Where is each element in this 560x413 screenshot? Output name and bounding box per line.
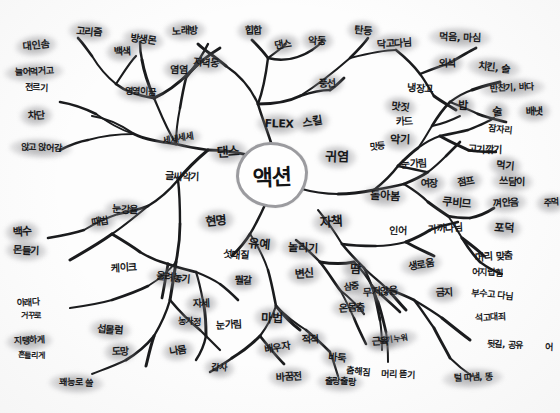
mind-map-node[interactable]: 술: [491, 106, 502, 119]
mind-map-node[interactable]: 탄등: [354, 25, 372, 37]
mind-map-node-label: 출랑출랑: [325, 377, 356, 387]
mind-map-node[interactable]: 점프: [457, 176, 476, 189]
mind-map-node[interactable]: 늘어먹거고: [15, 66, 53, 77]
mind-map-node[interactable]: 땀: [349, 263, 360, 276]
mind-map-node[interactable]: 포덕: [494, 222, 514, 235]
mind-map-node[interactable]: 꽤능로 쓸: [59, 378, 92, 388]
mind-map-node[interactable]: 저녁동: [193, 57, 220, 69]
mind-map-node[interactable]: 먹음, 마심: [439, 32, 480, 44]
mind-map-node[interactable]: 전르기: [24, 83, 47, 93]
mind-map-node[interactable]: 섭몰럼: [97, 324, 124, 336]
mind-map-node[interactable]: 카드: [395, 116, 413, 127]
mind-map-node[interactable]: 악기: [390, 134, 410, 146]
mind-map-edge: [70, 300, 112, 308]
mind-map-node[interactable]: 온몸춤: [339, 302, 365, 314]
mind-map-node[interactable]: 어: [545, 343, 553, 352]
mind-map-node[interactable]: 바꿈전: [276, 371, 302, 383]
mind-map-node[interactable]: 털 따냄, 똥: [453, 372, 492, 383]
mind-map-node[interactable]: 차단: [27, 110, 45, 121]
mind-map-node[interactable]: 나몸: [169, 345, 188, 358]
mind-map-node[interactable]: 악동: [308, 36, 326, 47]
mind-map-node[interactable]: 백색: [113, 46, 131, 57]
center-node-action[interactable]: 액션: [236, 142, 308, 208]
mind-map-node[interactable]: 반찬기, 바다: [490, 82, 534, 93]
mind-map-node[interactable]: 자책: [319, 215, 343, 229]
mind-map-node[interactable]: 출랑출랑: [325, 377, 356, 387]
mind-map-node[interactable]: 눈가림: [401, 158, 427, 170]
mind-map-node[interactable]: 글씨악기: [165, 171, 200, 182]
mind-map-node[interactable]: 금지: [435, 287, 453, 298]
mind-map-node[interactable]: 염염: [170, 65, 188, 76]
mind-map-node[interactable]: 눈가림: [216, 319, 242, 331]
mind-map-node[interactable]: 춤해짐: [346, 366, 370, 377]
mind-map-node[interactable]: 거꾸로: [21, 312, 41, 321]
mind-map-node[interactable]: 몬들기: [13, 245, 39, 256]
mind-map-node[interactable]: 스킬: [302, 115, 323, 129]
mind-map-node[interactable]: 쓰담이: [499, 176, 525, 187]
mind-map-node[interactable]: 풍선: [318, 78, 336, 89]
mind-map-edge: [226, 66, 258, 104]
mind-map-node[interactable]: 마법: [261, 312, 283, 325]
mind-map-node[interactable]: 케이크: [111, 262, 137, 274]
mind-map-node[interactable]: 바둑: [328, 352, 346, 364]
mind-map-node[interactable]: 고기깎기: [468, 144, 503, 155]
mind-map-node[interactable]: 먹기: [496, 160, 514, 172]
mind-map-node[interactable]: 머리 뜯기: [381, 370, 414, 380]
mind-map-node[interactable]: 잠자리: [488, 124, 512, 135]
mind-map-node[interactable]: FLEX: [264, 118, 293, 130]
mind-map-node[interactable]: 머리 맞춤: [475, 251, 513, 263]
mind-map-node[interactable]: 맛짓: [391, 101, 409, 113]
mind-map-node[interactable]: 뒷길, 공유: [487, 340, 523, 350]
mind-map-node[interactable]: 적적: [301, 334, 319, 345]
mind-map-node[interactable]: 뭘갈: [234, 275, 252, 286]
mind-map-node[interactable]: 지탱하게: [14, 336, 45, 347]
mind-map-node[interactable]: 외식: [438, 58, 456, 69]
mind-map-node[interactable]: 껴안음: [493, 197, 519, 209]
mind-map-node[interactable]: 석고대죄: [475, 313, 506, 324]
mind-map-node[interactable]: 세세세세: [162, 132, 193, 146]
mind-map-node[interactable]: 노래방: [172, 25, 198, 37]
mind-map-node[interactable]: 힙합: [244, 25, 262, 36]
mind-map-node[interactable]: 백수: [12, 226, 32, 238]
mind-map-node[interactable]: 놀리기: [288, 242, 317, 254]
mind-map-node[interactable]: 배우자: [263, 341, 290, 355]
mind-map-node[interactable]: 돌아봄: [370, 190, 399, 202]
mind-map-node[interactable]: 영영이끔: [125, 87, 156, 97]
mind-map-node[interactable]: 인어: [389, 226, 407, 237]
mind-map-node[interactable]: 유예: [248, 237, 270, 251]
mind-map-node[interactable]: 방생몬: [130, 33, 157, 47]
mind-map-node[interactable]: 변신: [294, 268, 314, 280]
mind-map-node[interactable]: 배냇: [525, 106, 543, 117]
mind-map-node[interactable]: 눈강율: [112, 204, 138, 215]
mind-map-node[interactable]: 냉장고: [407, 83, 433, 94]
mind-map-node[interactable]: 자세: [192, 298, 210, 309]
mind-map-node[interactable]: 흔들리게: [18, 351, 45, 360]
mind-map-node[interactable]: 치킨, 술: [477, 62, 510, 75]
mind-map-node[interactable]: 아래다: [16, 298, 39, 308]
mind-map-node[interactable]: 현명: [205, 214, 227, 228]
mind-map-node[interactable]: 가까다님: [428, 223, 463, 235]
mind-map-node[interactable]: 근육: [371, 336, 389, 347]
mind-map-node[interactable]: 도망: [111, 346, 129, 357]
mind-map-node[interactable]: 댄스: [274, 39, 293, 52]
mind-map-node[interactable]: 무저않음: [363, 286, 398, 298]
mind-map-node[interactable]: 삼중: [343, 282, 359, 292]
mind-map-node-label: 어지럽힘: [472, 268, 503, 278]
mind-map-node[interactable]: 고리즘: [76, 26, 103, 38]
mind-map-node[interactable]: 귀염: [325, 150, 349, 164]
mind-map-node[interactable]: 생로움: [407, 258, 434, 272]
mind-map-node[interactable]: 여장: [420, 178, 438, 189]
mind-map-node[interactable]: 섯대질: [223, 249, 250, 261]
mind-map-node[interactable]: 어지럽힘: [472, 268, 503, 278]
mind-map-node[interactable]: 맛등: [369, 142, 385, 152]
mind-map-node[interactable]: 닥고다님: [377, 38, 412, 50]
mind-map-node[interactable]: 밥: [458, 100, 468, 112]
mind-map-node[interactable]: 주먹: [543, 198, 559, 208]
mind-map-node[interactable]: 때법: [91, 216, 110, 229]
mind-map-node[interactable]: 올려놓기: [155, 271, 190, 284]
mind-map-node[interactable]: 대인솜: [23, 40, 50, 53]
mind-map-node[interactable]: 쿠비므: [442, 196, 472, 210]
mind-map-node[interactable]: 농가정: [177, 317, 200, 327]
mind-map-node[interactable]: 갑사: [211, 363, 227, 373]
mind-map-node[interactable]: 앉고 앉어감: [20, 143, 61, 154]
